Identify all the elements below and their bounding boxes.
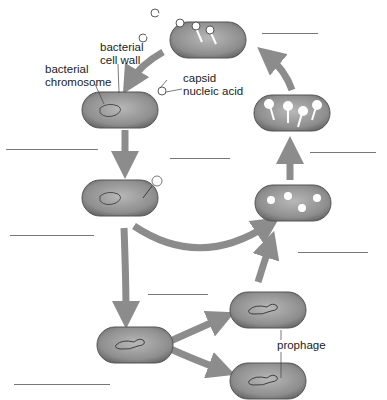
cell-lysogen bbox=[97, 327, 173, 363]
cell-infect bbox=[82, 87, 166, 128]
phage-cycle-diagram bbox=[0, 0, 387, 400]
cell-lysogen-daughter-1 bbox=[230, 292, 306, 328]
answer-blank-7[interactable] bbox=[148, 294, 208, 295]
arrow-inject-to-lysogen bbox=[124, 228, 126, 315]
answer-blank-1[interactable] bbox=[262, 33, 318, 34]
answer-blank-2[interactable] bbox=[6, 149, 98, 150]
cell-assemble bbox=[254, 95, 330, 131]
label-chromosome-1: bacterial bbox=[45, 63, 88, 76]
label-cell-wall-2: cell wall bbox=[100, 54, 140, 67]
cell-lysogen-daughter-2 bbox=[230, 363, 306, 399]
cell-top-release bbox=[170, 22, 246, 58]
arrow-assemble-to-release bbox=[268, 56, 292, 90]
label-nucleic-acid: nucleic acid bbox=[183, 85, 243, 98]
arrow-inject-to-replicate bbox=[134, 225, 268, 248]
label-chromosome-2: chromosome bbox=[45, 76, 111, 89]
answer-blank-8[interactable] bbox=[14, 384, 110, 385]
label-prophage: prophage bbox=[277, 339, 326, 352]
label-cell-wall-1: bacterial bbox=[100, 41, 143, 54]
answer-blank-5[interactable] bbox=[10, 235, 94, 236]
arrow-lysogen-to-replicate bbox=[258, 244, 270, 282]
arrow-split-down bbox=[166, 347, 222, 370]
arrow-split-up bbox=[166, 318, 222, 343]
cell-replicate bbox=[255, 185, 331, 221]
cell-inject bbox=[82, 176, 162, 216]
answer-blank-3[interactable] bbox=[170, 158, 230, 159]
label-capsid: capsid bbox=[183, 72, 216, 85]
answer-blank-6[interactable] bbox=[298, 252, 368, 253]
answer-blank-4[interactable] bbox=[310, 152, 376, 153]
